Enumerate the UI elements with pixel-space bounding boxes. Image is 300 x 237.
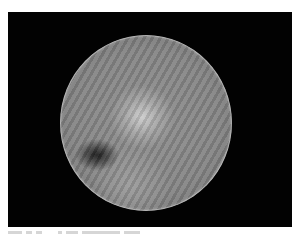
caption-fragment [8, 231, 22, 234]
planet-disk [60, 35, 232, 211]
image-panel [8, 12, 292, 227]
caption-fragment [124, 231, 140, 234]
image-caption [8, 229, 158, 235]
caption-fragment [36, 231, 42, 234]
caption-fragment [82, 231, 120, 234]
caption-fragment [26, 231, 32, 234]
caption-fragment [58, 231, 62, 234]
caption-fragment [66, 231, 78, 234]
disk-rim [60, 35, 232, 211]
